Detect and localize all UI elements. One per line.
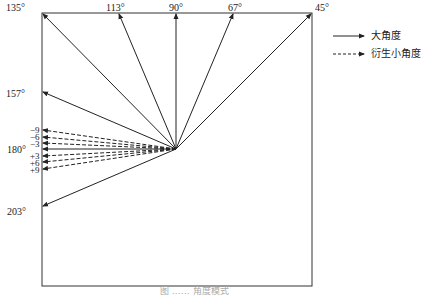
figure-caption: 图 …… 角度模式 bbox=[160, 284, 229, 297]
label-minus-3: −3 bbox=[30, 139, 40, 149]
label-135: 135° bbox=[6, 3, 25, 13]
label-45: 45° bbox=[315, 3, 329, 13]
label-67: 67° bbox=[228, 3, 242, 13]
label-180: 180° bbox=[7, 145, 26, 155]
large-angle-arrows bbox=[43, 14, 311, 206]
label-90: 90° bbox=[169, 3, 183, 13]
legend-large-angle: 大角度 bbox=[371, 31, 401, 41]
label-113: 113° bbox=[106, 3, 125, 13]
label-203: 203° bbox=[7, 207, 26, 217]
label-157: 157° bbox=[6, 89, 25, 99]
label-plus-9: +9 bbox=[30, 165, 40, 175]
legend-derived-small-angle: 衍生小角度 bbox=[371, 49, 421, 59]
